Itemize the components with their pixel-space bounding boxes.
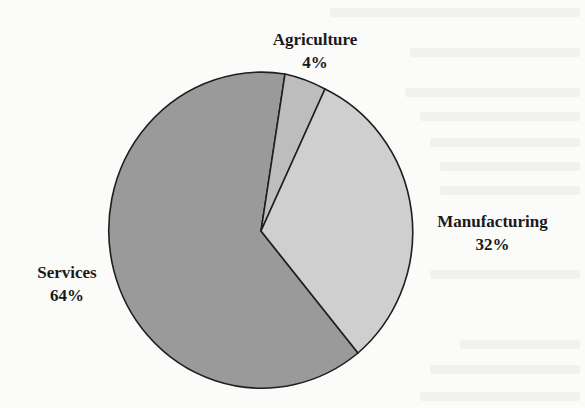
label-agriculture: Agriculture 4%	[270, 28, 360, 74]
label-agriculture-value: 4%	[270, 51, 360, 74]
label-manufacturing-value: 32%	[420, 233, 565, 256]
label-manufacturing: Manufacturing 32%	[420, 210, 565, 256]
label-services-name: Services	[22, 261, 112, 284]
label-services-value: 64%	[22, 284, 112, 307]
label-agriculture-name: Agriculture	[270, 28, 360, 51]
label-manufacturing-name: Manufacturing	[420, 210, 565, 233]
label-services: Services 64%	[22, 261, 112, 307]
